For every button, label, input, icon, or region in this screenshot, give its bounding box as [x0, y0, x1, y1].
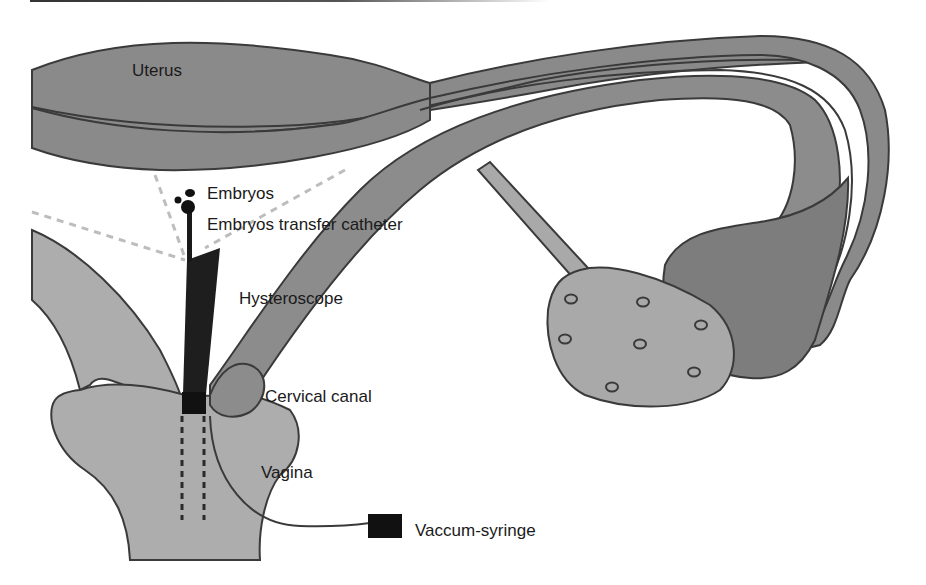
label-vacuum-syringe: Vaccum-syringe: [415, 522, 536, 539]
embryo-transfer-catheter: [187, 210, 192, 262]
ovarian-ligament: [478, 162, 588, 280]
label-hysteroscope: Hysteroscope: [239, 290, 343, 307]
diagram-canvas: Uterus Embryos Embryos transfer catheter…: [0, 0, 926, 585]
label-vagina: Vagina: [261, 464, 313, 481]
anatomy-illustration: [0, 0, 926, 585]
label-cervical-canal: Cervical canal: [265, 388, 372, 405]
vacuum-syringe-icon: [368, 514, 402, 538]
label-uterus: Uterus: [132, 62, 182, 79]
hysteroscope-base: [182, 392, 206, 414]
left-uterine-wall: [32, 230, 182, 400]
label-embryos: Embryos: [207, 185, 274, 202]
hysteroscope-body: [183, 248, 220, 394]
embryos-icon: [175, 189, 196, 214]
label-embryo-transfer-catheter: Embryos transfer catheter: [207, 216, 403, 233]
